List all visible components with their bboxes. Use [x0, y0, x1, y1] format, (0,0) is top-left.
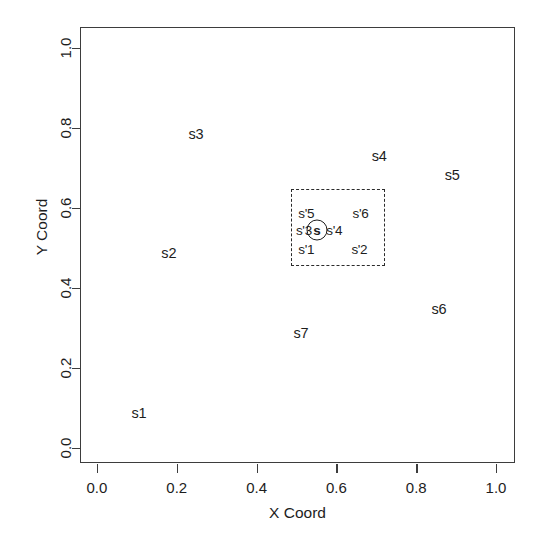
plot-panel: 0.00.20.40.60.81.00.00.20.40.60.81.0 s1s…: [80, 27, 515, 463]
y-axis-tick-label: 0.0: [57, 438, 74, 459]
x-axis-tick: [416, 464, 417, 473]
center-point-glyph: s: [313, 223, 321, 237]
data-point-label: s2: [161, 245, 176, 261]
x-axis-tick: [257, 464, 258, 473]
data-point-label: s5: [445, 167, 460, 183]
inset-point-label: s'1: [298, 241, 314, 256]
y-axis-tick-label: 0.8: [57, 118, 74, 139]
x-axis-tick-label: 0.8: [406, 479, 427, 496]
x-axis-title: X Coord: [80, 504, 515, 522]
x-axis-tick-label: 0.6: [326, 479, 347, 496]
data-point-label: s3: [188, 126, 203, 142]
inset-region-box: s'5s'6s'3s'4s'1s'2s: [291, 189, 385, 266]
x-axis-tick-label: 0.0: [87, 479, 108, 496]
x-axis-tick: [177, 464, 178, 473]
data-point-label: s7: [293, 325, 308, 341]
inset-point-label: s'4: [326, 222, 342, 237]
x-axis-tick: [496, 464, 497, 473]
y-axis-tick-label: 0.6: [57, 198, 74, 219]
y-axis-tick-label: 0.2: [57, 358, 74, 379]
x-axis-tick: [336, 464, 337, 473]
data-point-label: s6: [432, 301, 447, 317]
inset-point-label: s'5: [298, 205, 314, 220]
x-axis-tick-label: 0.4: [246, 479, 267, 496]
y-axis-tick-label: 1.0: [57, 38, 74, 59]
x-axis-tick: [97, 464, 98, 473]
inset-point-label: s'6: [353, 205, 369, 220]
scatter-plot-figure: 0.00.20.40.60.81.00.00.20.40.60.81.0 s1s…: [0, 0, 544, 545]
x-axis-tick-label: 0.2: [166, 479, 187, 496]
y-axis-tick-label: 0.4: [57, 278, 74, 299]
x-axis-tick-label: 1.0: [486, 479, 507, 496]
inset-point-label: s'2: [351, 241, 367, 256]
center-point-marker: s: [307, 219, 328, 240]
y-axis-title: Y Coord: [33, 9, 51, 445]
data-point-label: s4: [372, 148, 387, 164]
data-point-label: s1: [131, 405, 146, 421]
